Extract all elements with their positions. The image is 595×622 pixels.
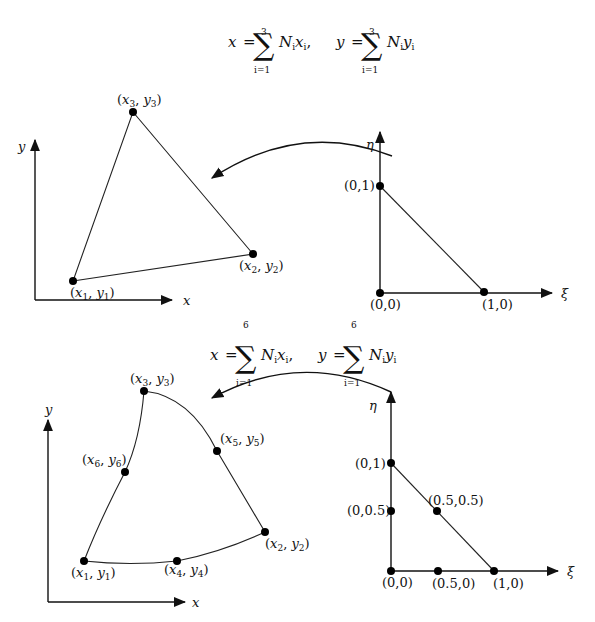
isoparametric-mapping-diagram: x = 3 ∑ i=1 Nixi, y = 3 ∑ i=1 Niyi y x (…: [0, 0, 595, 622]
ref-node-2-label: (1,0): [493, 576, 524, 591]
ref-node-6-label: (0,0.5): [347, 503, 390, 518]
ref-node-4: [434, 567, 442, 575]
edge-2-5-3: [144, 391, 265, 532]
node-1-label: (x1, y1): [71, 565, 116, 582]
x-axis-label: x: [183, 293, 191, 308]
summation-icon: ∑: [235, 340, 257, 375]
y-axis-label: y: [17, 139, 26, 154]
node-5: [213, 447, 221, 455]
physical-axes-linear: y x: [17, 139, 191, 308]
node-1: [80, 557, 88, 565]
ref-node-2-label: (1,0): [482, 297, 513, 312]
node-2-label: (x2, y2): [239, 258, 284, 275]
formula-y-term: Niyi: [386, 33, 415, 52]
summation-icon: ∑: [343, 340, 365, 375]
hypotenuse: [380, 186, 484, 292]
formula-y-lhs: y: [317, 346, 327, 364]
node-2: [261, 528, 269, 536]
physical-linear-triangle: (x1, y1) (x2, y2) (x3, y3): [69, 92, 284, 302]
ref-node-5: [433, 507, 441, 515]
edge-3-6-1: [84, 391, 144, 561]
linear-mapping-formula: x = 3 ∑ i=1 Nixi, y = 3 ∑ i=1 Niyi: [228, 27, 415, 75]
physical-quadratic-triangle: (x1, y1) (x2, y2) (x3, y3) (x4, y4) (x5,…: [71, 371, 310, 582]
reference-linear-triangle: (0,0) (1,0) (0,1): [344, 178, 513, 312]
triangle-edges: [73, 112, 253, 281]
reference-axes-quadratic: η ξ: [369, 392, 575, 579]
ref-node-1-label: (0,0): [382, 575, 413, 590]
node-1: [69, 277, 77, 285]
node-6: [121, 468, 129, 476]
node-6-label: (x6, y6): [82, 452, 127, 469]
hypotenuse: [391, 463, 494, 571]
ref-node-2: [490, 567, 498, 575]
ref-node-2: [480, 288, 488, 296]
ref-node-1-label: (0,0): [370, 297, 401, 312]
formula-x-lhs: x: [228, 33, 237, 51]
ref-node-3-label: (0,1): [355, 456, 386, 471]
eta-axis-label: η: [366, 137, 374, 152]
xi-axis-label: ξ: [561, 286, 569, 301]
node-3-label: (x3, y3): [117, 92, 162, 109]
summation-icon: ∑: [253, 27, 275, 62]
node-3: [140, 387, 148, 395]
node-3: [129, 108, 137, 116]
formula-x-term: Nixi,: [260, 346, 293, 365]
ref-node-3: [387, 459, 395, 467]
node-1-label: (x1, y1): [70, 285, 115, 302]
formula-y-term: Niyi: [368, 346, 397, 365]
ref-node-3-label: (0,1): [344, 178, 375, 193]
formula-x-lhs: x: [210, 346, 219, 364]
x-axis-label: x: [192, 595, 200, 610]
node-4-label: (x4, y4): [164, 562, 209, 579]
node-2: [249, 250, 257, 258]
mapping-arrow: [212, 142, 392, 178]
node-3-label: (x3, y3): [130, 371, 175, 388]
sum-lower-limit: i=1: [362, 65, 378, 75]
ref-node-4-label: (0.5,0): [432, 576, 475, 591]
ref-node-3: [376, 182, 384, 190]
formula-y-lhs: y: [335, 33, 345, 51]
node-2-label: (x2, y2): [265, 536, 310, 553]
node-5-label: (x5, y5): [220, 431, 265, 448]
ref-node-1: [387, 567, 395, 575]
summation-icon: ∑: [361, 27, 383, 62]
eta-axis-label: η: [369, 398, 377, 413]
ref-node-5-label: (0.5,0.5): [428, 493, 484, 508]
sum-lower-limit: i=1: [254, 65, 270, 75]
quadratic-mapping-formula: x = 6 ∑ i=1 Nixi, y = 6 ∑ i=1 Niyi: [210, 320, 397, 388]
sum-upper-limit: 6: [351, 320, 357, 330]
mapping-arrow: [212, 372, 391, 398]
formula-x-term: Nixi,: [278, 33, 311, 52]
xi-axis-label: ξ: [567, 564, 575, 579]
sum-upper-limit: 6: [243, 320, 249, 330]
reference-quadratic-triangle: (0,0) (1,0) (0,1) (0.5,0) (0.5,0.5) (0,0…: [347, 456, 524, 591]
y-axis-label: y: [44, 402, 53, 417]
ref-node-1: [376, 289, 384, 297]
